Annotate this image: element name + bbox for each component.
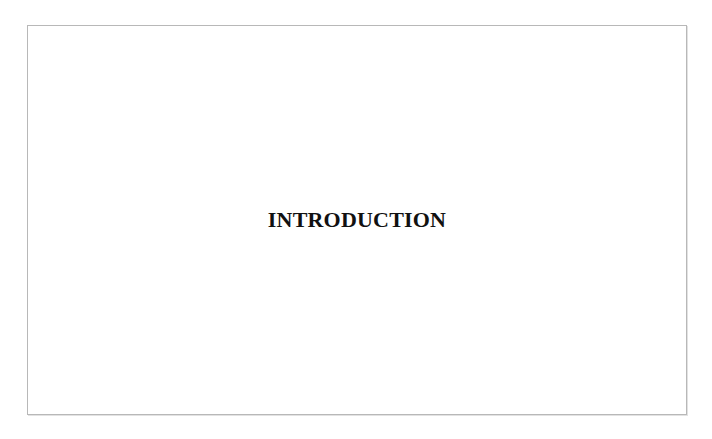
document-page: INTRODUCTION <box>27 25 687 415</box>
section-heading: INTRODUCTION <box>28 207 686 233</box>
